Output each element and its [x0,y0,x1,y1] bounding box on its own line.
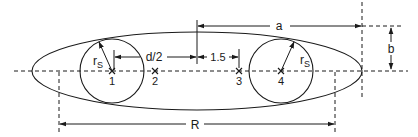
R-label: R [191,118,200,132]
radius-arrow-right [281,42,294,71]
a-label: a [276,19,283,33]
ellipse-circles-diagram: rS rS 1 2 3 4 d/2 1.5 a b R [0,0,418,137]
radius-label-left: rS [93,54,103,70]
point-label-1: 1 [109,75,115,87]
point-label-2: 2 [152,75,158,87]
spacing-label: 1.5 [210,51,225,63]
d-half-label: d/2 [146,50,163,64]
b-label: b [388,42,395,56]
point-label-4: 4 [278,75,284,87]
point-label-3: 3 [236,75,242,87]
